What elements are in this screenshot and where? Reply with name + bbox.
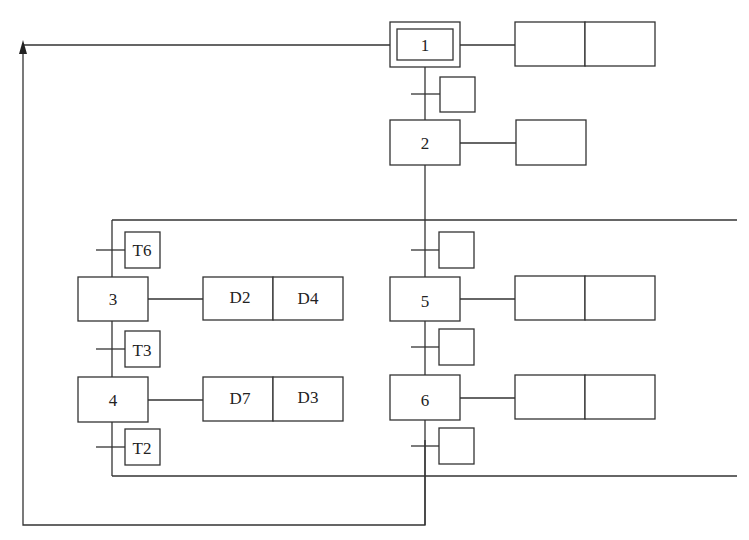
svg-text:T2: T2 [133,439,152,458]
transition-T2-condition: T2 [125,429,160,465]
step-5[interactable]: 5 [390,277,460,321]
step-4-actions: D7 D3 [203,377,343,421]
step-6-actions [515,375,655,419]
step-2[interactable]: 2 [390,120,460,165]
transition-T6-condition: T6 [125,232,160,268]
transition-T3-condition: T3 [125,331,160,367]
svg-text:T6: T6 [133,241,152,260]
transition-6-end-condition [439,428,474,464]
step-1-actions [515,22,655,66]
svg-text:D2: D2 [230,288,251,307]
transition-5-6-condition [439,329,474,365]
transition-2-5-condition [439,232,474,268]
svg-text:D7: D7 [230,389,251,408]
transition-1-2-condition [440,77,475,112]
svg-text:1: 1 [421,36,430,55]
step-3[interactable]: 3 [78,277,148,321]
step-4[interactable]: 4 [78,377,148,422]
step-2-action [516,120,586,165]
svg-text:3: 3 [109,290,118,309]
svg-text:D4: D4 [298,289,319,308]
step-5-actions [515,276,655,320]
svg-text:T3: T3 [133,341,152,360]
svg-text:6: 6 [421,391,430,410]
svg-text:4: 4 [109,391,118,410]
arrow-up-icon [19,40,27,54]
step-1[interactable]: 1 [390,22,460,67]
svg-text:D3: D3 [298,388,319,407]
svg-text:2: 2 [421,134,430,153]
step-3-actions: D2 D4 [203,277,343,320]
svg-text:5: 5 [421,292,430,311]
step-6[interactable]: 6 [390,375,460,420]
grafcet-diagram: 1 2 T6 3 D2 D4 T3 4 D7 [0,0,749,540]
